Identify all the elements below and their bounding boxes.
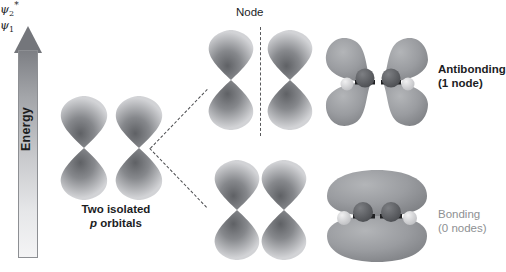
antibonding-title: Antibonding	[438, 63, 506, 75]
antibonding-label: Antibonding (1 node)	[438, 63, 506, 90]
bonding-label: Bonding (0 nodes)	[438, 207, 487, 235]
bonding-mo-surface	[325, 168, 429, 264]
node-label: Node	[236, 6, 264, 18]
energy-arrow: Energy	[14, 26, 42, 258]
energy-axis-label: Energy	[19, 73, 33, 185]
psi1-orbital-left	[211, 160, 263, 260]
psi2-orbital-right	[264, 30, 316, 130]
caption-line-1: Two isolated	[82, 203, 151, 215]
node-dashed-line	[260, 27, 261, 136]
bonding-sublabel: (0 nodes)	[438, 222, 487, 234]
isolated-orbitals-caption: Two isolated p orbitals	[56, 203, 176, 230]
psi2-orbital-left	[205, 30, 257, 130]
energy-arrow-head	[14, 26, 42, 53]
diagram-canvas: Energy Two isolated p orbitals Node	[0, 0, 506, 272]
antibonding-sublabel: (1 node)	[438, 77, 483, 89]
caption-line-2: orbitals	[97, 217, 142, 229]
psi2-symbol: ψ	[0, 2, 9, 16]
antibonding-mo-surface	[325, 26, 429, 138]
bonding-title: Bonding	[438, 208, 480, 220]
psi2-subscript: 2	[9, 9, 14, 18]
isolated-p-orbital-left	[57, 96, 111, 200]
psi2-superscript: *	[14, 0, 19, 10]
psi1-orbital-right	[258, 160, 310, 260]
isolated-p-orbital-right	[112, 96, 166, 200]
psi1-symbol: ψ	[0, 18, 9, 32]
